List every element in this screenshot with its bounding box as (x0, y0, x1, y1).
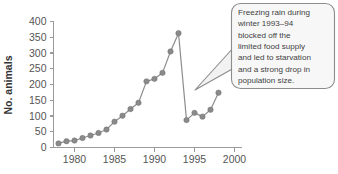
data-point (192, 110, 197, 115)
x-axis-group: 19801985199019952000 (54, 148, 247, 165)
data-point (216, 90, 221, 95)
callout-text-line: winter 1993–94 (237, 19, 294, 28)
y-tick-label: 100 (29, 110, 47, 122)
callout-text-line: population size. (238, 76, 294, 85)
y-tick-label: 400 (29, 15, 47, 27)
chart-svg: 050100150200250300350400 198019851990199… (0, 0, 338, 174)
data-point (200, 114, 205, 119)
x-tick-label: 1980 (63, 153, 87, 165)
data-point (128, 106, 133, 111)
data-point (56, 141, 61, 146)
callout-text-line: limited food supply (238, 42, 306, 51)
data-point (96, 130, 101, 135)
data-point (88, 133, 93, 138)
population-line-chart: 050100150200250300350400 198019851990199… (0, 0, 338, 174)
data-point (184, 117, 189, 122)
y-tick-label: 350 (29, 31, 47, 43)
y-axis-title: No. animals (2, 55, 14, 114)
y-tick-label: 50 (35, 125, 47, 137)
data-point (136, 100, 141, 105)
callout-text-line: blocked off the (238, 31, 291, 40)
data-point (112, 119, 117, 124)
y-tick-label: 200 (29, 78, 47, 90)
data-point (144, 79, 149, 84)
x-tick-label: 1985 (103, 153, 127, 165)
x-tick-label: 1990 (143, 153, 167, 165)
callout-text-line: and led to starvation (238, 53, 311, 62)
y-axis-ticks: 050100150200250300350400 (29, 15, 54, 153)
callout-text-line: Freezing rain during (238, 8, 310, 17)
x-axis-ticks: 19801985199019952000 (63, 148, 247, 165)
data-point (104, 127, 109, 132)
callout-tail (195, 47, 234, 90)
data-point (80, 135, 85, 140)
data-point (152, 76, 157, 81)
data-point (120, 113, 125, 118)
series-line-no-animals (59, 33, 219, 143)
y-tick-label: 250 (29, 62, 47, 74)
x-tick-label: 1995 (183, 153, 207, 165)
data-point (64, 139, 69, 144)
annotation-callout: Freezing rain duringwinter 1993–94blocke… (195, 4, 335, 91)
data-point (208, 107, 213, 112)
y-tick-label: 0 (41, 141, 47, 153)
callout-text-line: and a strong drop in (238, 65, 310, 74)
y-tick-label: 150 (29, 94, 47, 106)
y-axis-group: 050100150200250300350400 (29, 15, 54, 153)
data-point (176, 30, 181, 35)
data-point (72, 138, 77, 143)
data-point (160, 70, 165, 75)
y-tick-label: 300 (29, 47, 47, 59)
data-point (168, 49, 173, 54)
x-tick-label: 2000 (223, 153, 247, 165)
